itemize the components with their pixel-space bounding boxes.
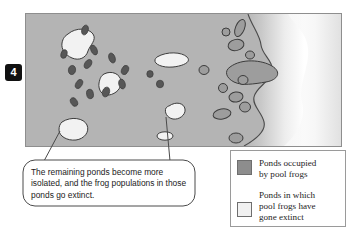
dark-marker [156,80,163,88]
legend: Ponds occupied by pool frogs Ponds in wh… [230,150,346,227]
callout-text: The remaining ponds become more isolated… [31,167,189,201]
pond-extinct [155,53,189,67]
pond-occupied [199,66,209,75]
figure-number-badge: 4 [5,64,22,81]
pond-occupied [229,133,243,143]
habitat-map-illustration [26,14,341,146]
pond-occupied [219,84,228,93]
legend-label-occupied: Ponds occupied by pool frogs [259,158,316,180]
pond-occupied [246,51,255,59]
pond-extinct [157,132,173,140]
pond-occupied [222,28,230,36]
pond-occupied [238,76,248,85]
map-panel [25,13,342,147]
pond-extinct [59,118,88,140]
legend-swatch-extinct [237,202,252,217]
pond-occupied [227,61,278,84]
dark-marker [147,71,153,78]
legend-item-extinct: Ponds in which pool frogs have gone exti… [237,190,316,224]
legend-swatch-occupied [237,160,252,175]
pond-occupied [240,102,251,112]
callout-box [23,160,195,206]
legend-label-extinct: Ponds in which pool frogs have gone exti… [259,190,316,224]
legend-item-occupied: Ponds occupied by pool frogs [237,158,316,180]
